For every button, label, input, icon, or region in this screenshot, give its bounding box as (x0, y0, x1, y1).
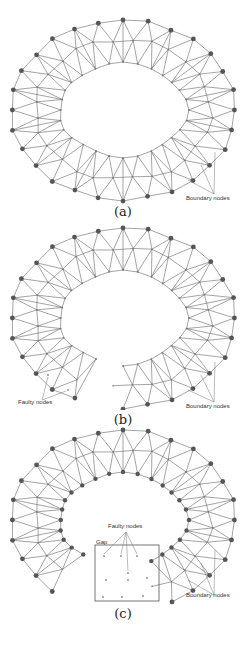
boundary-node (34, 462, 39, 467)
boundary-node (50, 589, 55, 594)
boundary-node (223, 355, 228, 360)
boundary-node (207, 371, 212, 376)
boundary-node (232, 518, 237, 523)
boundary-node (34, 52, 39, 57)
boundary-node (73, 396, 78, 401)
boundary-node (229, 127, 234, 132)
boundary-node (231, 295, 236, 300)
boundary-node (73, 188, 78, 193)
boundary-node (146, 429, 151, 434)
boundary-node (170, 398, 175, 403)
gap-label: Gap (96, 539, 107, 545)
boundary-node (169, 236, 174, 241)
panel-c: Faulty nodes Gap Boundary nodes (c) (0, 420, 246, 651)
boundary-node (121, 199, 126, 204)
boundary-nodes-label: Boundary nodes (186, 592, 230, 598)
boundary-node (231, 497, 236, 502)
boundary-node (145, 194, 150, 199)
boundary-node (229, 335, 234, 340)
boundary-node (34, 163, 39, 168)
boundary-node (50, 36, 55, 41)
boundary-node (10, 518, 15, 523)
boundary-node (220, 69, 225, 74)
boundary-node (191, 245, 196, 250)
boundary-node (191, 447, 196, 452)
boundary-node (19, 478, 24, 483)
boundary-node (207, 163, 212, 168)
boundary-node (207, 573, 212, 578)
boundary-node (20, 556, 25, 561)
boundary-node (72, 27, 77, 32)
boundary-node (96, 229, 101, 234)
boundary-node (11, 295, 16, 300)
boundary-node (10, 108, 15, 113)
boundary-node (223, 147, 228, 152)
faulty-nodes-label: Faulty nodes (18, 399, 52, 405)
boundary-node (169, 438, 174, 443)
boundary-node (146, 19, 151, 24)
boundary-node (10, 538, 15, 543)
boundary-node (72, 437, 77, 442)
boundary-nodes-label: Boundary nodes (186, 195, 230, 201)
boundary-node (50, 179, 55, 184)
boundary-node (169, 28, 174, 33)
boundary-node (220, 479, 225, 484)
boundary-nodes-label: Boundary nodes (186, 403, 230, 409)
boundary-node (170, 190, 175, 195)
boundary-node (10, 128, 15, 133)
boundary-node (50, 387, 55, 392)
boundary-node (220, 277, 225, 282)
boundary-node (20, 354, 25, 359)
boundary-node (10, 336, 15, 341)
boundary-node (191, 178, 196, 183)
boundary-node (231, 87, 236, 92)
boundary-node (121, 407, 126, 410)
boundary-node (208, 461, 213, 466)
boundary-node (208, 259, 213, 264)
boundary-node (34, 573, 39, 578)
boundary-node (11, 87, 16, 92)
boundary-node (19, 276, 24, 281)
boundary-node (96, 21, 101, 26)
boundary-node (121, 18, 126, 23)
boundary-node (20, 146, 25, 151)
caption-c: (c) (0, 606, 246, 621)
mesh-network-b (0, 210, 246, 410)
boundary-node (146, 227, 151, 232)
boundary-node (232, 108, 237, 113)
boundary-node (229, 537, 234, 542)
panel-a: Boundary nodes (a) (0, 0, 246, 220)
boundary-node (208, 51, 213, 56)
boundary-node (96, 195, 101, 200)
boundary-node (191, 386, 196, 391)
boundary-node (11, 497, 16, 502)
boundary-node (19, 68, 24, 73)
boundary-node (191, 37, 196, 42)
boundary-node (34, 371, 39, 376)
boundary-node (72, 235, 77, 240)
mesh-network-a (0, 0, 246, 205)
boundary-node (223, 557, 228, 562)
boundary-node (50, 244, 55, 249)
boundary-node (10, 316, 15, 321)
panel-b: Faulty nodes Boundary nodes (b) (0, 210, 246, 420)
boundary-node (121, 428, 126, 433)
boundary-node (34, 260, 39, 265)
boundary-node (170, 600, 175, 605)
boundary-node (232, 316, 237, 321)
boundary-node (145, 402, 150, 407)
faulty-nodes-label: Faulty nodes (108, 523, 142, 529)
boundary-node (121, 226, 126, 231)
boundary-node (96, 431, 101, 436)
boundary-node (50, 446, 55, 451)
